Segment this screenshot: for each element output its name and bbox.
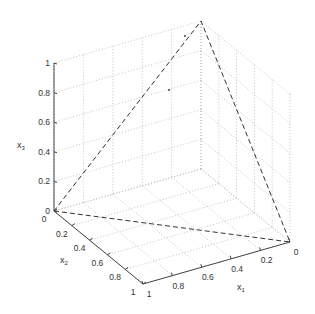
grid-line	[201, 80, 290, 153]
x2-tick-label: 0.8	[109, 272, 121, 282]
grid-line	[107, 213, 254, 255]
point-b-marker	[168, 89, 170, 91]
x1-tick-label: 0.4	[231, 264, 243, 274]
x1-axis-label: x1	[237, 282, 246, 293]
grid-line	[54, 21, 201, 63]
x2-tick-label: 0.2	[56, 229, 68, 239]
x2-tick-label: 0	[42, 214, 47, 224]
grid-line	[90, 198, 237, 240]
grid-line	[201, 139, 290, 212]
x1-tick-label: 0.2	[261, 255, 273, 265]
grid-line	[54, 51, 201, 93]
x2-axis-label: x2	[60, 255, 69, 266]
x3-axis-label: x3	[17, 140, 26, 151]
x2-axis-line	[54, 211, 143, 284]
x3-tick-label: 1	[45, 58, 50, 68]
grid-line	[54, 169, 201, 211]
grid-line	[72, 184, 219, 226]
tick-labels: 00.20.40.60.8100.20.40.60.8100.20.40.60.…	[17, 58, 299, 299]
grid-line	[172, 177, 261, 250]
x3-tick-label: 0.8	[38, 88, 50, 98]
grid-line	[142, 186, 231, 259]
3d-plot: 00.20.40.60.8100.20.40.60.8100.20.40.60.…	[0, 0, 315, 314]
grid-line	[201, 169, 290, 242]
x3-tick-label: 0.2	[38, 176, 50, 186]
x3-tick-label: 0.4	[38, 147, 50, 157]
point-a-marker	[184, 35, 186, 37]
grid-line	[113, 194, 202, 267]
x1-tick-label: 0.8	[172, 281, 184, 291]
x2-tick-label: 0.4	[74, 243, 86, 253]
grid-line	[125, 227, 272, 269]
grid-line	[201, 51, 290, 124]
grid-lines	[54, 21, 290, 284]
x2-tick-label: 1	[131, 287, 136, 297]
x1-tick-label: 0.6	[202, 272, 214, 282]
grid-line	[54, 139, 201, 181]
x2-tick-label: 0.6	[91, 258, 103, 268]
x1-tick-label: 1	[147, 289, 152, 299]
x3-tick-label: 0.6	[38, 117, 50, 127]
grid-line	[201, 21, 290, 94]
grid-line	[201, 110, 290, 183]
x1-tick-label: 0	[294, 247, 299, 257]
